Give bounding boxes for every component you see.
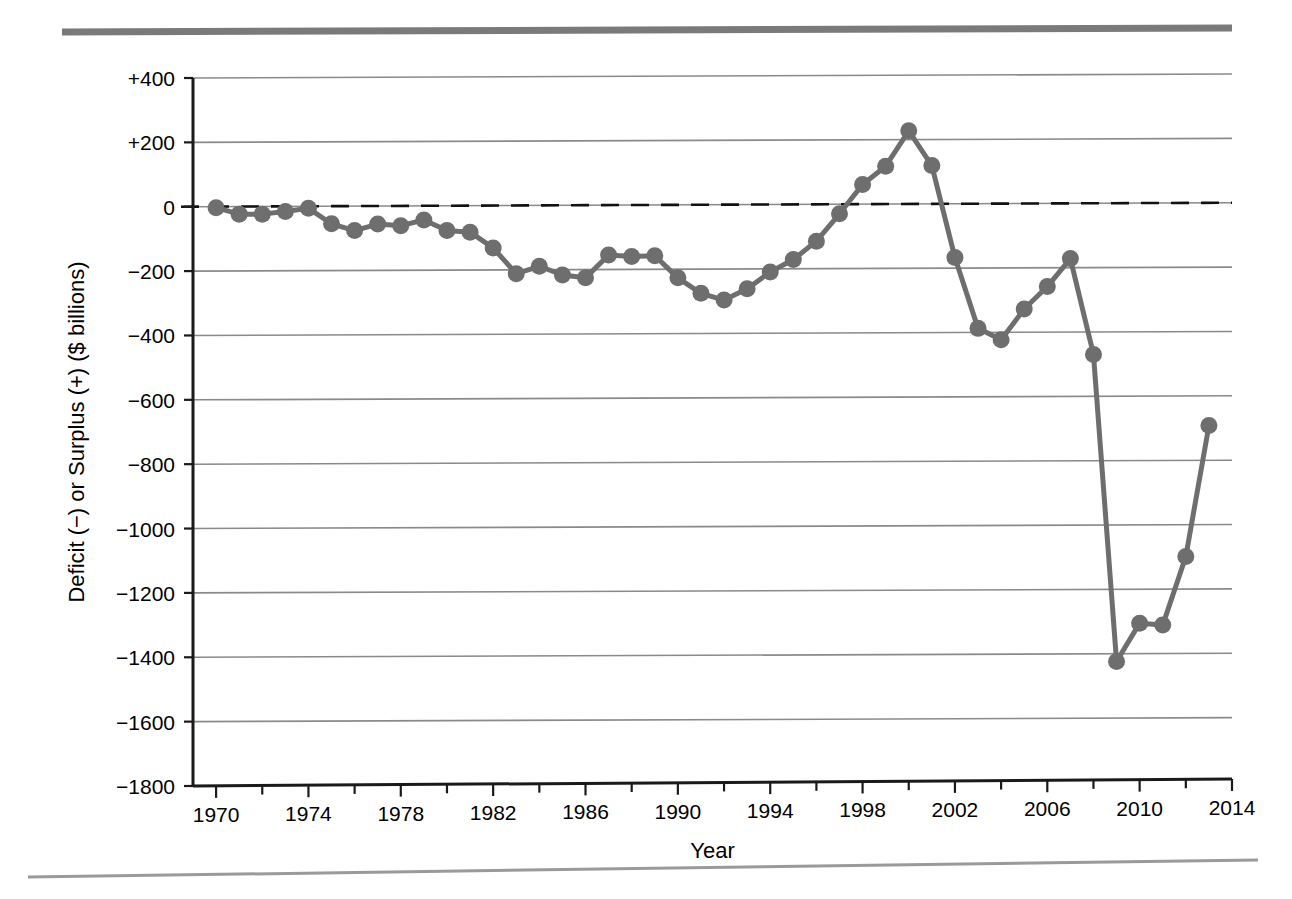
y-axis-tick-label: −1200 [116, 582, 175, 605]
figure-container: +400+2000−200−400−600−800−1000−1200−1400… [0, 0, 1292, 899]
data-point [554, 266, 571, 283]
y-axis-tick-label: −1000 [116, 518, 175, 541]
x-axis-tick-label: 1982 [470, 801, 517, 824]
data-point [946, 249, 963, 266]
data-point [1108, 653, 1125, 670]
data-point [716, 292, 733, 309]
y-axis-tick-label: −1400 [116, 646, 175, 669]
data-point [300, 200, 317, 217]
x-axis-tick-label: 2010 [1116, 797, 1163, 820]
data-point [254, 206, 271, 223]
data-point [1039, 278, 1056, 295]
x-axis-tick-label: 2002 [932, 798, 979, 821]
x-axis-tick-label: 1970 [193, 803, 240, 826]
x-axis-tick-label: 2006 [1024, 797, 1071, 820]
data-point [993, 331, 1010, 348]
data-point [485, 239, 502, 256]
x-axis-tick-label: 1990 [655, 800, 702, 823]
data-point [669, 269, 686, 286]
data-point [970, 320, 987, 337]
data-point [415, 211, 432, 228]
data-point [277, 203, 294, 220]
y-axis-tick-label: −400 [128, 324, 175, 347]
top-rule [62, 28, 1232, 32]
y-axis-tick-label: +400 [128, 67, 175, 90]
x-axis-tick-label: 1986 [562, 800, 609, 823]
y-axis-tick-label: +200 [128, 131, 175, 154]
x-axis-tick-label: 1978 [377, 802, 424, 825]
data-point [438, 222, 455, 239]
data-point [1200, 417, 1217, 434]
data-point [692, 285, 709, 302]
data-point [323, 215, 340, 232]
data-point [808, 233, 825, 250]
data-point [346, 222, 363, 239]
data-point [785, 251, 802, 268]
y-axis-tick-label: −200 [128, 260, 175, 283]
data-point [462, 224, 479, 241]
data-point [508, 265, 525, 282]
data-point [231, 206, 248, 223]
data-point [762, 264, 779, 281]
deficit-surplus-line-chart: +400+2000−200−400−600−800−1000−1200−1400… [0, 0, 1292, 899]
data-point [1085, 346, 1102, 363]
data-point [600, 247, 617, 264]
data-point [369, 216, 386, 233]
data-point [208, 199, 225, 216]
data-point [900, 122, 917, 139]
y-axis-title: Deficit (−) or Surplus (+) ($ billions) [64, 261, 89, 602]
data-point [1016, 301, 1033, 318]
y-axis-tick-label: −1800 [116, 775, 175, 798]
y-axis-tick-label: −600 [128, 389, 175, 412]
x-axis-tick-label: 1974 [285, 802, 332, 825]
y-axis-tick-label: 0 [163, 196, 175, 219]
data-point [1131, 615, 1148, 632]
data-point [577, 269, 594, 286]
data-point [877, 158, 894, 175]
data-point [854, 176, 871, 193]
data-point [1154, 617, 1171, 634]
data-point [531, 258, 548, 275]
y-axis-tick-label: −800 [128, 453, 175, 476]
data-point [646, 247, 663, 264]
x-axis-title: Year [690, 838, 734, 863]
x-axis-tick-label: 2014 [1209, 796, 1256, 819]
data-point [1062, 250, 1079, 267]
data-point [623, 248, 640, 265]
data-point [923, 157, 940, 174]
x-axis-tick-label: 1994 [747, 799, 794, 822]
y-axis-tick-label: −1600 [116, 711, 175, 734]
data-point [739, 280, 756, 297]
data-point [1177, 548, 1194, 565]
x-axis-tick-label: 1998 [839, 798, 886, 821]
data-point [392, 217, 409, 234]
data-point [831, 205, 848, 222]
